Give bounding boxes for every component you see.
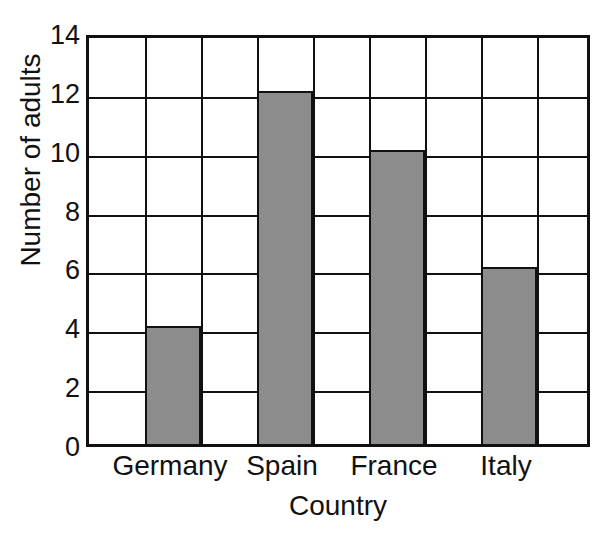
y-tick-label: 8 bbox=[40, 198, 80, 225]
x-tick-label-france: France bbox=[350, 451, 437, 482]
y-axis-title: Number of adults bbox=[17, 0, 45, 325]
gridline-vertical bbox=[537, 38, 539, 444]
plot-inner bbox=[89, 38, 587, 444]
y-tick-label: 4 bbox=[40, 316, 80, 343]
gridline-horizontal bbox=[89, 215, 587, 217]
plot-area bbox=[86, 35, 590, 447]
bar-spain bbox=[257, 91, 313, 444]
chart-title-cropped bbox=[0, 0, 605, 16]
bar-italy bbox=[481, 267, 537, 444]
gridline-vertical bbox=[201, 38, 203, 444]
y-tick-label: 10 bbox=[40, 139, 80, 166]
y-tick-label: 14 bbox=[40, 22, 80, 49]
gridline-vertical bbox=[313, 38, 315, 444]
x-tick-label-italy: Italy bbox=[480, 451, 531, 482]
gridline-vertical bbox=[425, 38, 427, 444]
x-axis-title: Country bbox=[86, 492, 590, 520]
gridline-horizontal bbox=[89, 97, 587, 99]
x-axis-tick-labels: GermanySpainFranceItaly bbox=[86, 451, 590, 491]
gridline-horizontal bbox=[89, 156, 587, 158]
y-tick-label: 2 bbox=[40, 375, 80, 402]
x-tick-label-germany: Germany bbox=[112, 451, 227, 482]
bar-chart: 02468101214 Number of adults GermanySpai… bbox=[0, 0, 605, 539]
y-tick-label: 6 bbox=[40, 257, 80, 284]
bar-france bbox=[369, 150, 425, 444]
y-tick-label: 12 bbox=[40, 80, 80, 107]
bar-germany bbox=[145, 326, 201, 444]
y-tick-label: 0 bbox=[40, 434, 80, 461]
x-tick-label-spain: Spain bbox=[246, 451, 318, 482]
